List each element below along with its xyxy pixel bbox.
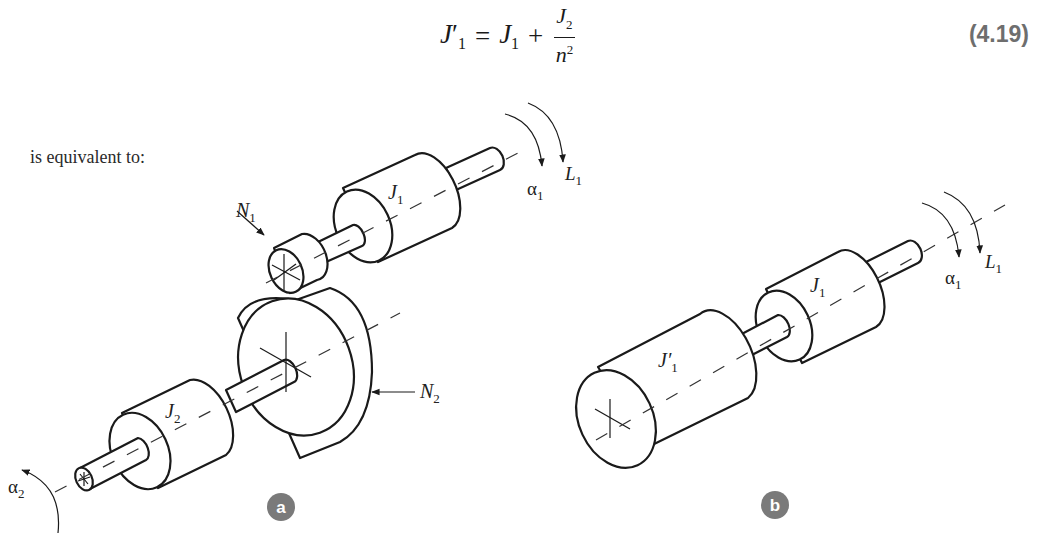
alpha2-arrow — [22, 470, 59, 533]
figure-a-upper-shaft — [262, 148, 504, 299]
svg-text:a: a — [276, 498, 286, 517]
figure-b-shaft — [561, 241, 922, 481]
label-alpha1-a: α1 — [527, 178, 543, 203]
svg-text:b: b — [770, 496, 780, 515]
alpha1-a-arrow — [505, 114, 542, 166]
label-alpha2: α2 — [8, 476, 24, 501]
badge-b: b — [761, 491, 789, 519]
label-n2: N2 — [419, 380, 440, 406]
badge-a: a — [267, 493, 295, 521]
label-alpha1-b: α1 — [945, 267, 961, 292]
figure-a-lower-shaft — [72, 360, 297, 499]
l1-a-arrow — [528, 103, 563, 162]
label-n1: N1 — [235, 199, 256, 225]
gear-train-figure: N1 N2 J1 J2 α1 L1 α2 J′1 J1 α1 L1 a b — [0, 0, 1041, 549]
label-l1-b: L1 — [984, 251, 1002, 276]
label-l1-a: L1 — [564, 163, 582, 188]
